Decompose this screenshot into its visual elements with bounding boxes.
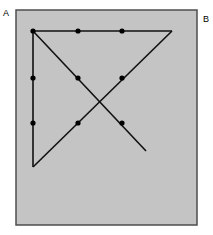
point-left-lower xyxy=(30,120,35,125)
line-figure-svg xyxy=(0,0,213,235)
point-inner-upper-right xyxy=(119,75,124,80)
point-inner-upper-left xyxy=(75,75,80,80)
label-a: A xyxy=(3,9,9,18)
point-inner-lower-right xyxy=(119,120,124,125)
figure-canvas: A B xyxy=(0,0,213,235)
point-top-mid-left xyxy=(75,28,80,33)
point-top-mid-right xyxy=(119,28,124,33)
point-top-left-corner xyxy=(30,28,35,33)
point-inner-lower-left xyxy=(75,120,80,125)
point-left-upper xyxy=(30,75,35,80)
label-b: B xyxy=(203,15,209,24)
